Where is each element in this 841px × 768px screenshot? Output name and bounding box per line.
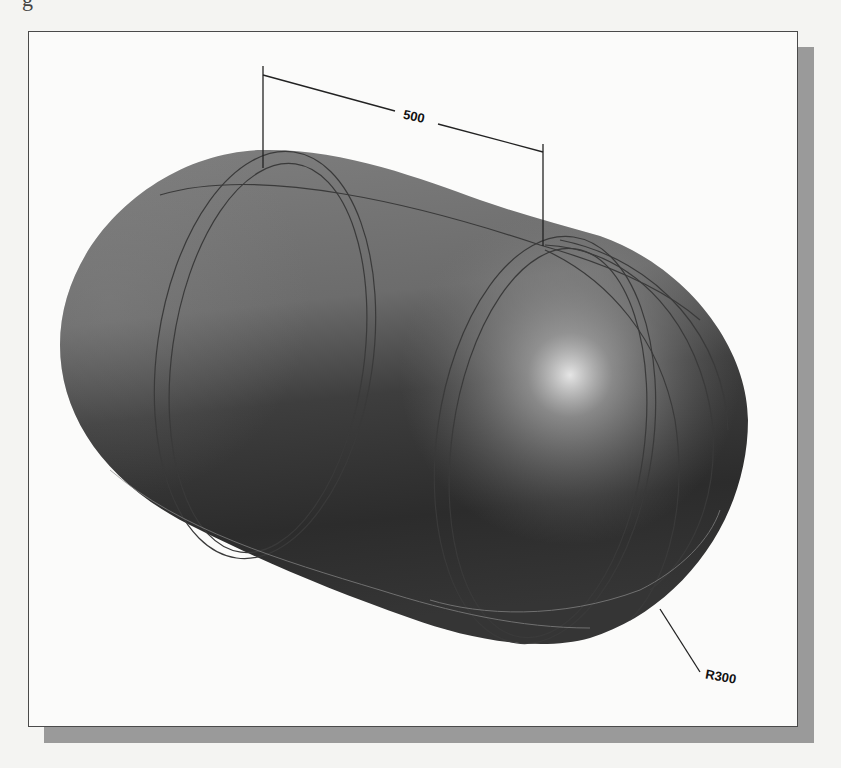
- specular-highlight: [60, 150, 748, 644]
- radius-dimension-label: R300: [704, 667, 737, 687]
- dimension-line-right: [438, 124, 543, 152]
- radius-leader-line: [660, 609, 700, 672]
- capsule-figure: 500 R300: [0, 0, 841, 768]
- dimension-line-left: [263, 75, 395, 111]
- length-dimension-label: 500: [402, 107, 426, 126]
